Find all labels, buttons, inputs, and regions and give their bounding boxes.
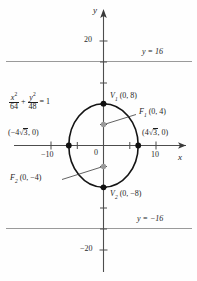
focus-bottom-marker	[101, 164, 106, 169]
directrix-upper-label: y = 16	[142, 48, 163, 56]
x-tick-label-10: 10	[151, 151, 159, 159]
equation-x-fraction: x2 64	[9, 92, 19, 111]
x-axis-label: x	[178, 152, 182, 162]
equation-equals-one: = 1	[40, 97, 51, 106]
equation-y-fraction: y2 48	[28, 92, 38, 111]
figure-canvas	[0, 0, 197, 281]
ellipse-equation: x2 64 + y2 48 = 1	[9, 92, 50, 111]
focus-top-marker	[101, 122, 106, 127]
vertex-bottom-label: V2 (0, −8)	[110, 190, 141, 200]
y-axis-label: y	[93, 5, 97, 15]
focus-top-label: F1 (0, 4)	[139, 108, 166, 118]
radical-sign-right: √3	[149, 128, 158, 137]
vertex-top-label: V1 (0, 8)	[110, 92, 137, 102]
radical-sign-left: √3	[19, 128, 28, 137]
vertex-bottom-marker	[101, 184, 107, 190]
covertex-right-label: (4√3, 0)	[142, 128, 168, 137]
y-tick-label-20: 20	[84, 36, 92, 44]
directrix-lower-label: y = −16	[137, 215, 163, 223]
covertex-left-label: (−4√3, 0)	[8, 128, 39, 137]
covertex-right-marker	[135, 143, 141, 149]
x-tick-label-neg10: −10	[41, 151, 54, 159]
covertex-left-marker	[66, 143, 72, 149]
equation-plus-sign: +	[21, 97, 26, 106]
origin-label: 0	[94, 149, 98, 157]
focus-bottom-label: F2 (0, −4)	[10, 174, 41, 184]
vertex-top-marker	[101, 101, 107, 107]
ellipse-figure: y x 0 −10 10 20 −20 y = 16 y = −16 x2 64…	[0, 0, 197, 281]
y-tick-label-neg20: −20	[80, 245, 93, 253]
